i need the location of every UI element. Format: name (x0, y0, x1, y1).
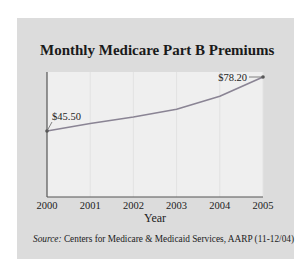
annotation-start-value: $45.50 (52, 111, 81, 122)
plot-area: $45.50$78.20 (45, 72, 265, 198)
source-note: Source: Centers for Medicare & Medicaid … (33, 234, 294, 244)
x-tick-label: 2004 (209, 200, 231, 211)
x-tick-label: 2002 (123, 200, 144, 211)
source-text: Centers for Medicare & Medicaid Services… (62, 234, 294, 244)
x-tick-label: 2003 (166, 200, 187, 211)
x-axis-label: Year (0, 211, 308, 226)
x-tick-label: 2005 (253, 200, 274, 211)
x-tick-label: 2001 (80, 200, 101, 211)
x-tick-label: 2000 (37, 200, 58, 211)
x-axis-ticks: 200020012002200320042005 (37, 200, 274, 211)
annotation-end-value: $78.20 (218, 72, 247, 83)
source-prefix: Source: (33, 234, 62, 244)
